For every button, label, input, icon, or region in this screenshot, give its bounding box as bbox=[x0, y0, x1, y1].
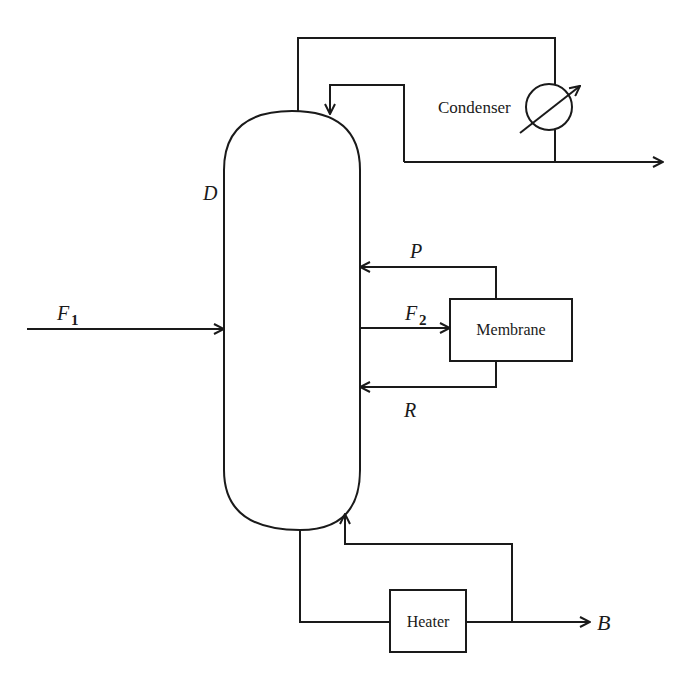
membrane-label: Membrane bbox=[476, 321, 545, 338]
feed2-label: F bbox=[404, 302, 418, 324]
bottoms-label: B bbox=[597, 610, 610, 635]
process-diagram: D Condenser F 1 Membrane F 2 P R Heater … bbox=[0, 0, 693, 677]
column-label: D bbox=[202, 182, 218, 204]
feed1-label: F bbox=[56, 302, 70, 324]
overhead-vapor-line bbox=[298, 38, 555, 111]
permeate-label: P bbox=[409, 240, 422, 262]
condenser-label: Condenser bbox=[438, 98, 511, 117]
retentate-label: R bbox=[403, 399, 416, 421]
distillation-column bbox=[224, 111, 360, 530]
retentate-line bbox=[360, 361, 496, 387]
feed2-subscript: 2 bbox=[419, 312, 427, 328]
reboiler-return-line bbox=[345, 514, 512, 622]
feed1-subscript: 1 bbox=[71, 312, 79, 328]
permeate-line bbox=[360, 267, 496, 299]
heater-label: Heater bbox=[407, 613, 450, 630]
